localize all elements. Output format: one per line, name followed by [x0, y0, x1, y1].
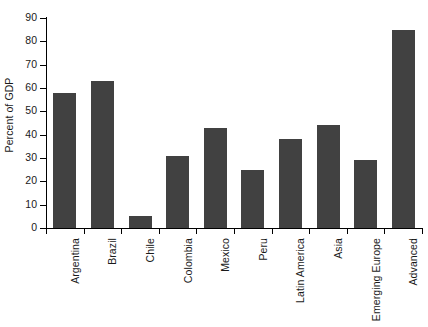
- y-axis-line: [46, 17, 47, 229]
- y-axis-tick-label: 60: [7, 81, 37, 93]
- x-axis-tick-label: Advanced: [407, 238, 421, 286]
- x-axis-tick: [384, 228, 385, 234]
- bar: [53, 93, 76, 228]
- y-axis-tick: [40, 18, 46, 19]
- y-axis-tick: [40, 88, 46, 89]
- bar: [91, 81, 114, 228]
- x-axis-tick: [196, 228, 197, 234]
- x-axis-tick-label: Argentina: [69, 238, 83, 284]
- bar: [166, 156, 189, 228]
- y-axis-tick-label: 10: [7, 198, 37, 210]
- x-axis-tick: [84, 228, 85, 234]
- x-axis-tick-label: Peru: [257, 238, 271, 261]
- bar-chart: Percent of GDP 0102030405060708090 Argen…: [0, 0, 428, 327]
- y-axis-tick-label: 50: [7, 104, 37, 116]
- x-axis-tick: [159, 228, 160, 234]
- x-axis-tick: [46, 228, 47, 234]
- y-axis-tick: [40, 158, 46, 159]
- x-axis-tick: [347, 228, 348, 234]
- x-axis-tick: [309, 228, 310, 234]
- x-axis-tick-label: Asia: [332, 238, 346, 259]
- y-axis-tick-label: 20: [7, 174, 37, 186]
- x-axis-tick: [422, 228, 423, 234]
- bar: [241, 170, 264, 228]
- y-axis-tick-label: 80: [7, 34, 37, 46]
- x-axis-tick-label: Chile: [144, 238, 158, 262]
- bar: [204, 128, 227, 228]
- y-axis-tick: [40, 111, 46, 112]
- x-axis-tick-label: Colombia: [182, 238, 196, 283]
- x-axis-tick-label: Latin America: [294, 238, 308, 303]
- bar: [317, 125, 340, 228]
- x-axis-tick-label: Mexico: [219, 238, 233, 272]
- y-axis-tick-label: 30: [7, 151, 37, 163]
- y-axis-tick: [40, 135, 46, 136]
- bar: [129, 216, 152, 228]
- y-axis-tick-label: 40: [7, 128, 37, 140]
- y-axis-tick: [40, 41, 46, 42]
- y-axis-tick-label: 70: [7, 58, 37, 70]
- x-axis-tick: [272, 228, 273, 234]
- y-axis-tick: [40, 65, 46, 66]
- y-axis-tick-label: 0: [7, 221, 37, 233]
- y-axis-tick-label: 90: [7, 11, 37, 23]
- bar: [354, 160, 377, 228]
- x-axis-tick-label: Emerging Europe: [370, 238, 384, 321]
- x-axis-tick: [234, 228, 235, 234]
- y-axis-tick: [40, 205, 46, 206]
- bar: [392, 30, 415, 228]
- x-axis-tick: [121, 228, 122, 234]
- bar: [279, 139, 302, 228]
- x-axis-tick-label: Brazil: [106, 238, 120, 265]
- y-axis-tick: [40, 181, 46, 182]
